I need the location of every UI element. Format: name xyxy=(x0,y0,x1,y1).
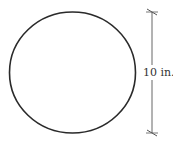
circle-shape xyxy=(10,12,136,133)
dimension-label: 10 in. xyxy=(143,66,173,79)
diagram-canvas: 10 in. xyxy=(0,0,173,143)
